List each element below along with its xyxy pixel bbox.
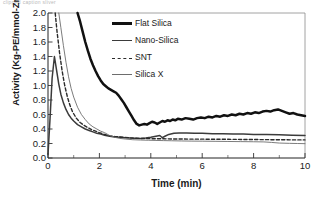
legend-item-label: Nano-Silica: [135, 36, 178, 45]
y-tick-label: 0.4: [12, 124, 46, 134]
x-tick-label: 10: [290, 160, 316, 171]
chart-legend: Flat SilicaNano-SilicaSNTSilica X: [112, 15, 208, 83]
x-tick-label: 2: [84, 160, 114, 171]
x-tick-label: 8: [239, 160, 269, 171]
y-tick-label: 0.8: [12, 95, 46, 105]
y-tick-label: 0.2: [12, 139, 46, 149]
y-tick-label: 0.6: [12, 110, 46, 120]
legend-swatch-icon: [112, 53, 132, 63]
y-tick-label: 1.8: [12, 23, 46, 33]
y-tick-label: 1.6: [12, 37, 46, 47]
legend-item-snt: SNT: [112, 49, 208, 66]
y-tick-label: 1.4: [12, 52, 46, 62]
y-tick-label: 1.2: [12, 66, 46, 76]
x-tick-label: 6: [187, 160, 217, 171]
x-axis-title: Time (min): [48, 178, 305, 189]
legend-swatch-icon: [112, 19, 132, 29]
x-axis-tick-labels: 0246810: [0, 160, 316, 176]
legend-swatch-icon: [112, 70, 132, 80]
chart-figure: clipped caption sliver Activity (Kg-PE/m…: [0, 0, 316, 198]
legend-item-silica-x: Silica X: [112, 66, 208, 83]
legend-item-label: SNT: [135, 53, 152, 62]
legend-swatch-icon: [112, 36, 132, 46]
x-tick-label: 4: [136, 160, 166, 171]
y-tick-label: 2.0: [12, 8, 46, 18]
y-tick-label: 1.0: [12, 81, 46, 91]
legend-item-label: Flat Silica: [135, 19, 172, 28]
x-tick-label: 0: [33, 160, 63, 171]
legend-item-flat-silica: Flat Silica: [112, 15, 208, 32]
legend-item-nano-silica: Nano-Silica: [112, 32, 208, 49]
legend-item-label: Silica X: [135, 70, 163, 79]
